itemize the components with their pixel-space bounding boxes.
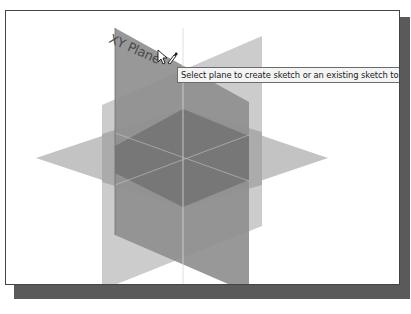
select-cursor-icon — [157, 49, 179, 69]
graphics-viewport[interactable]: XY Plane Select plane to create sketch o… — [5, 10, 400, 285]
tooltip: Select plane to create sketch or an exis… — [177, 67, 400, 83]
origin-planes-scene — [6, 11, 400, 285]
